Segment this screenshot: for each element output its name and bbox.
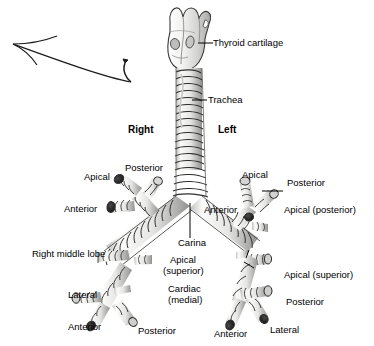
- label-left-lower-anterior: Anterior: [214, 329, 247, 340]
- label-left-lower-apical-superior: Apical (superior): [284, 270, 353, 281]
- trachea-shape: [173, 68, 208, 197]
- left-lower-lobe-bronchi: [224, 250, 272, 331]
- label-left-upper-anterior: Anterior: [204, 205, 237, 216]
- label-right-upper-anterior: Anterior: [64, 204, 97, 215]
- label-right-lower-apical-superior-line1: Apical: [170, 255, 196, 266]
- label-right-middle-lobe: Right middle lobe: [32, 249, 105, 260]
- label-right-lower-apical-superior-line2: (superior): [163, 266, 204, 277]
- label-left-upper-apical-posterior: Apical (posterior): [284, 205, 356, 216]
- label-right-lower-anterior: Anterior: [68, 322, 101, 333]
- label-right-side: Right: [128, 125, 154, 136]
- label-left-side: Left: [218, 125, 236, 136]
- label-left-lower-lateral: Lateral: [270, 325, 299, 336]
- left-upper-lobe-bronchi: [230, 177, 280, 232]
- right-upper-lobe-bronchi: [106, 173, 164, 218]
- label-left-lower-posterior: Posterior: [286, 297, 324, 308]
- label-thyroid-cartilage: Thyroid cartilage: [213, 38, 283, 49]
- label-right-upper-posterior: Posterior: [125, 163, 163, 174]
- label-right-upper-apical: Apical: [84, 172, 110, 183]
- label-left-upper-apical: Apical: [242, 170, 268, 181]
- label-right-lower-cardiac-medial-line2: (medial): [168, 295, 202, 306]
- label-left-upper-posterior: Posterior: [287, 178, 325, 189]
- label-right-lower-lateral: Lateral: [68, 290, 97, 301]
- anatomy-figure: Thyroid cartilage Trachea Right Left Car…: [0, 0, 374, 346]
- label-carina: Carina: [178, 238, 206, 249]
- hand-drawn-arrow: [13, 36, 131, 82]
- label-right-lower-posterior: Posterior: [138, 326, 176, 337]
- label-right-lower-cardiac-medial-line1: Cardiac: [168, 284, 201, 295]
- thyroid-cartilage-shape: [168, 8, 210, 70]
- label-trachea: Trachea: [208, 95, 243, 106]
